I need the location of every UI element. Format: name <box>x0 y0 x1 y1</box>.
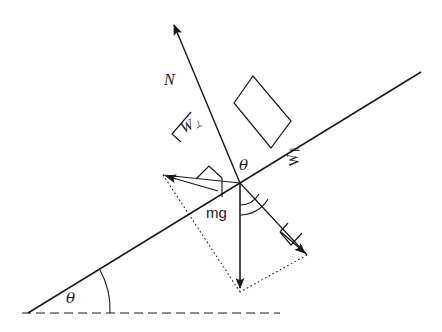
interior-angle-arc-outer <box>240 199 268 215</box>
component-parallelogram-dotted-left <box>163 175 240 292</box>
component-parallelogram-dotted-right <box>240 255 307 292</box>
normal-force-arrow <box>174 25 240 183</box>
block-rectangle <box>234 76 291 148</box>
incline-surface-line <box>28 72 421 313</box>
diagram-svg <box>0 0 442 332</box>
physics-diagram-canvas: N W⊥ W∥ mg θ θ <box>0 0 442 332</box>
right-angle-marker-center <box>196 166 222 179</box>
component-parallelogram-solid-right <box>240 183 307 255</box>
incline-angle-label: θ <box>66 291 75 306</box>
normal-force-label: N <box>164 72 175 88</box>
incline-angle-arc <box>100 270 110 313</box>
interior-angle-label: θ <box>239 158 248 173</box>
weight-label: mg <box>206 205 227 220</box>
